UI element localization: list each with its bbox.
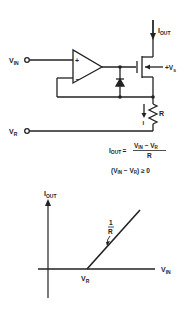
svg-text:1: 1 <box>109 219 113 226</box>
output-equation: IOUT= VIN − VR R <box>109 142 166 159</box>
transfer-graph <box>38 204 155 298</box>
svg-text:(VIN − VR) ≥ 0: (VIN − VR) ≥ 0 <box>111 167 150 175</box>
svg-text:−: − <box>76 76 80 83</box>
svg-text:VIN: VIN <box>9 57 19 66</box>
current-arrow-icon <box>142 113 147 118</box>
svg-text:R: R <box>159 110 164 117</box>
svg-text:IOUT: IOUT <box>44 190 57 199</box>
svg-text:+: + <box>75 57 79 64</box>
svg-text:IOUT=: IOUT= <box>109 147 126 155</box>
condition-equation: (VIN − VR) ≥ 0 <box>111 167 150 175</box>
circuit-diagram: VIN VR IOUT +Vs R I + − IOUT= VIN − VR R… <box>0 0 190 311</box>
svg-text:I: I <box>143 120 145 126</box>
transfer-line <box>87 210 140 269</box>
svg-text:R: R <box>108 228 113 235</box>
svg-text:VIN − VR: VIN − VR <box>134 142 159 150</box>
y-axis-arrow-icon <box>45 199 51 206</box>
svg-text:VIN: VIN <box>161 266 171 275</box>
svg-text:VR: VR <box>9 128 18 137</box>
vin-terminal <box>25 58 30 63</box>
svg-text:IOUT: IOUT <box>158 27 171 36</box>
vr-terminal <box>25 129 30 134</box>
svg-text:VR: VR <box>81 275 90 284</box>
svg-text:+Vs: +Vs <box>165 64 176 73</box>
resistor-symbol <box>149 104 157 124</box>
svg-text:R: R <box>147 152 152 159</box>
diode-symbol <box>116 79 124 86</box>
iout-arrow-icon <box>150 33 156 40</box>
